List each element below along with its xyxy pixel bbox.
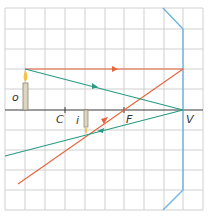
focus-label: F xyxy=(126,114,132,125)
arrow-icon xyxy=(112,66,118,72)
ray-vertex xyxy=(5,69,183,156)
image-label: i xyxy=(76,115,79,126)
grid xyxy=(5,8,203,210)
object-candle xyxy=(23,70,28,110)
ray-diagram xyxy=(0,0,208,220)
ray-parallel xyxy=(18,69,183,184)
vertex-label: V xyxy=(186,114,194,125)
center-label: C xyxy=(56,114,64,125)
object-label: o xyxy=(12,92,19,103)
arrow-icon xyxy=(101,117,108,124)
